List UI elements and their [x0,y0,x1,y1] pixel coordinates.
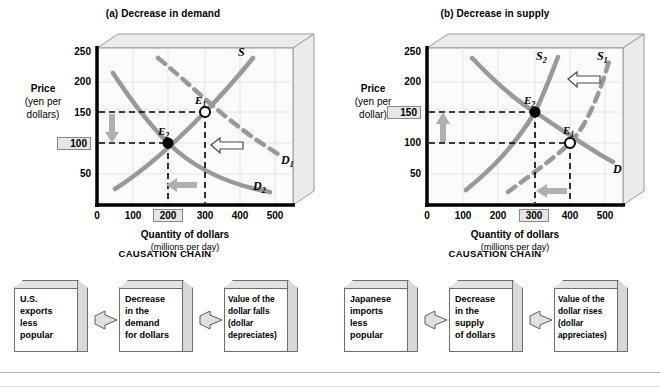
bottom-divider-rule [0,372,660,373]
line-2: imports [350,305,408,317]
causation-box-1-text: Japanese imports less popular [350,293,408,341]
line-2: dollar falls [228,305,290,317]
curve-label-S: S [238,45,245,59]
causation-box-1: Japanese imports less popular [344,280,418,352]
line-3: (dollar [228,317,290,329]
line-3: demand [125,317,183,329]
causation-box-1: U.S. exports less popular [14,280,88,352]
line-2: in the [455,305,513,317]
causation-arrow-1-icon [93,310,119,330]
panel-b-plot: S2 S1 D E2 E1 [330,0,660,240]
causation-box-2-text: Decrease in the supply of dollars [455,293,513,341]
box-side-face [513,280,523,352]
causation-arrow-1-icon [423,310,449,330]
panel-a-causation-chain-title: CAUSATION CHAIN [0,248,330,259]
panel-b-causation-chain-title: CAUSATION CHAIN [330,248,660,259]
line-4: appreciates) [558,329,620,341]
line-4: for dollars [125,329,183,341]
causation-box-2-text: Decrease in the demand for dollars [125,293,183,341]
box-top-face [449,280,513,288]
box-top-face [224,280,288,288]
line-1: U.S. [20,293,78,305]
plot-3d-top-face [97,34,314,48]
causation-box-2: Decrease in the demand for dollars [119,280,193,352]
line-3: (dollar [558,317,620,329]
causation-box-2: Decrease in the supply of dollars [449,280,523,352]
box-side-face [78,280,88,352]
box-top-face [14,280,78,288]
equilibrium-point-E1 [565,138,575,148]
box-top-face [344,280,408,288]
causation-arrow-2-icon [528,310,554,330]
causation-box-3: Value of the dollar falls (dollar deprec… [224,280,298,352]
line-4: of dollars [455,329,513,341]
line-1: Value of the [228,293,290,305]
curve-label-D: D [612,162,622,176]
causation-box-3-text: Value of the dollar rises (dollar apprec… [558,293,620,341]
line-3: less [20,317,78,329]
line-3: less [350,317,408,329]
panel-a-plot: S D1 D2 E1 E2 [0,0,330,240]
line-1: Decrease [455,293,513,305]
line-1: Decrease [125,293,183,305]
box-side-face [408,280,418,352]
causation-box-1-text: U.S. exports less popular [20,293,78,341]
line-1: Value of the [558,293,620,305]
line-2: dollar rises [558,305,620,317]
box-side-face [183,280,193,352]
line-4: popular [20,329,78,341]
plot-3d-top-face [427,34,644,48]
causation-box-3-text: Value of the dollar falls (dollar deprec… [228,293,290,341]
causation-box-3: Value of the dollar rises (dollar apprec… [554,280,628,352]
line-2: exports [20,305,78,317]
line-1: Japanese [350,293,408,305]
line-2: in the [125,305,183,317]
box-top-face [119,280,183,288]
line-4: depreciates) [228,329,290,341]
line-3: supply [455,317,513,329]
box-top-face [554,280,618,288]
plot-3d-right-face [293,34,314,205]
causation-arrow-2-icon [198,310,224,330]
panel-decrease-in-demand: (a) Decrease in demand Price (yen per do… [0,0,330,388]
plot-3d-right-face [623,34,644,205]
panel-decrease-in-supply: (b) Decrease in supply Price (yen per do… [330,0,660,388]
bottom-divider-rule-2 [0,386,660,387]
line-4: popular [350,329,408,341]
